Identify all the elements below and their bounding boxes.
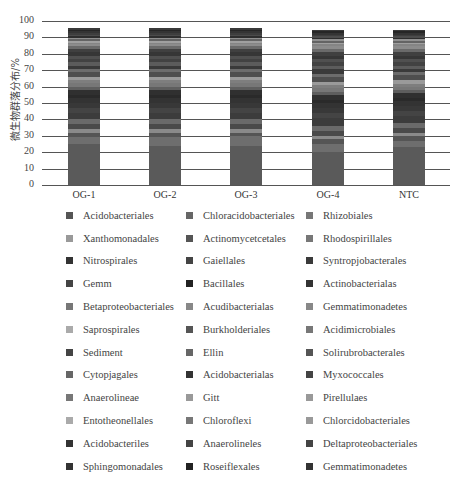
bar-segment bbox=[312, 118, 344, 126]
legend-item: Gemmatimonadetes bbox=[306, 295, 446, 318]
legend-item: Acidobacteriles bbox=[66, 432, 186, 455]
legend-label: Acidobacterialas bbox=[203, 369, 274, 380]
bar-ntc bbox=[393, 29, 425, 185]
y-tick-label: 40 bbox=[14, 112, 34, 123]
stacked-bar-chart: 微生物群落分布/% 0102030405060708090100OG-1OG-2… bbox=[0, 0, 462, 200]
y-tick-label: 10 bbox=[14, 162, 34, 173]
bar-segment bbox=[68, 144, 100, 185]
y-tick-label: 0 bbox=[14, 178, 34, 189]
legend-item: Burkholderiales bbox=[186, 318, 306, 341]
legend-label: Entotheonellales bbox=[83, 415, 153, 426]
legend-swatch-icon bbox=[66, 326, 73, 333]
legend-label: Chlorcidobacteriales bbox=[323, 415, 410, 426]
legend-swatch-icon bbox=[66, 440, 73, 447]
legend-item: Chlorcidobacteriales bbox=[306, 409, 446, 432]
legend-item: Roseiflexales bbox=[186, 455, 306, 478]
legend-label: Burkholderiales bbox=[203, 324, 270, 335]
legend-swatch-icon bbox=[186, 280, 193, 287]
bar-og-4 bbox=[312, 29, 344, 185]
legend-item: Myxococcales bbox=[306, 364, 446, 387]
bar-segment bbox=[230, 146, 262, 185]
legend-label: Gemmatimonadetes bbox=[323, 461, 407, 472]
legend-item: Chloroflexi bbox=[186, 409, 306, 432]
legend-swatch-icon bbox=[186, 212, 193, 219]
x-tick-label: OG-3 bbox=[216, 189, 276, 200]
legend-swatch-icon bbox=[306, 371, 313, 378]
legend-label: Chloracidobacteriales bbox=[203, 210, 295, 221]
legend-swatch-icon bbox=[186, 394, 193, 401]
gridline bbox=[42, 21, 450, 22]
y-tick-label: 50 bbox=[14, 96, 34, 107]
legend-item: Gemm bbox=[66, 272, 186, 295]
legend-swatch-icon bbox=[306, 303, 313, 310]
legend-item: Betaproteobacteriales bbox=[66, 295, 186, 318]
legend-item: Actinobacterialas bbox=[306, 272, 446, 295]
x-tick-label: OG-2 bbox=[135, 189, 195, 200]
bar-og-3 bbox=[230, 28, 262, 185]
legend-item: Chloracidobacteriales bbox=[186, 204, 306, 227]
legend-swatch-icon bbox=[186, 257, 193, 264]
legend-swatch-icon bbox=[66, 349, 73, 356]
legend-swatch-icon bbox=[66, 371, 73, 378]
legend-label: Bacillales bbox=[203, 278, 244, 289]
legend-item: Ellin bbox=[186, 341, 306, 364]
legend-label: Rhodospirillales bbox=[323, 233, 392, 244]
bar-segment bbox=[312, 152, 344, 185]
legend-item: Anaerolineae bbox=[66, 386, 186, 409]
legend-swatch-icon bbox=[66, 280, 73, 287]
legend-swatch-icon bbox=[186, 326, 193, 333]
legend-label: Rhizobiales bbox=[323, 210, 373, 221]
legend-swatch-icon bbox=[186, 463, 193, 470]
legend-swatch-icon bbox=[306, 235, 313, 242]
legend-label: Acidobacteriles bbox=[83, 438, 149, 449]
legend-swatch-icon bbox=[306, 257, 313, 264]
legend-swatch-icon bbox=[306, 280, 313, 287]
legend-swatch-icon bbox=[306, 440, 313, 447]
legend-item: Rhodospirillales bbox=[306, 227, 446, 250]
legend-item: Deltaproteobacteriales bbox=[306, 432, 446, 455]
legend-label: Syntropjobacterales bbox=[323, 255, 406, 266]
legend-label: Gemmatimonadetes bbox=[323, 301, 407, 312]
legend-label: Gitt bbox=[203, 392, 219, 403]
bar-segment bbox=[149, 146, 181, 185]
legend-label: Nitrospirales bbox=[83, 255, 137, 266]
legend-label: Roseiflexales bbox=[203, 461, 260, 472]
legend-swatch-icon bbox=[186, 349, 193, 356]
legend-label: Chloroflexi bbox=[203, 415, 251, 426]
legend-label: Anaerolineles bbox=[203, 438, 261, 449]
legend-swatch-icon bbox=[186, 235, 193, 242]
legend-item: Pirellulaes bbox=[306, 386, 446, 409]
y-tick-label: 30 bbox=[14, 129, 34, 140]
legend-item: Acudibacterialas bbox=[186, 295, 306, 318]
legend-item: Saprospirales bbox=[66, 318, 186, 341]
legend-item: Actinomycetcetales bbox=[186, 227, 306, 250]
legend-label: Gaiellales bbox=[203, 255, 245, 266]
legend-item: Entotheonellales bbox=[66, 409, 186, 432]
legend-item: Gitt bbox=[186, 386, 306, 409]
legend-swatch-icon bbox=[186, 440, 193, 447]
bar-segment bbox=[230, 136, 262, 146]
legend-swatch-icon bbox=[66, 257, 73, 264]
bar-segment bbox=[312, 144, 344, 152]
legend-item: Sphingomonadales bbox=[66, 455, 186, 478]
legend-item: Acidobacteriales bbox=[66, 204, 186, 227]
legend-swatch-icon bbox=[306, 349, 313, 356]
legend-label: Sediment bbox=[83, 347, 123, 358]
legend-swatch-icon bbox=[306, 463, 313, 470]
legend-swatch-icon bbox=[306, 417, 313, 424]
legend-label: Acidobacteriales bbox=[83, 210, 154, 221]
legend-label: Deltaproteobacteriales bbox=[323, 438, 417, 449]
legend-label: Anaerolineae bbox=[83, 392, 139, 403]
legend-label: Sphingomonadales bbox=[83, 461, 163, 472]
legend-swatch-icon bbox=[66, 463, 73, 470]
legend-label: Myxococcales bbox=[323, 369, 384, 380]
x-tick-label: OG-1 bbox=[54, 189, 114, 200]
x-tick-label: NTC bbox=[379, 189, 439, 200]
legend-label: Cytopjagales bbox=[83, 369, 138, 380]
y-tick-label: 20 bbox=[14, 145, 34, 156]
legend-item: Nitrospirales bbox=[66, 250, 186, 273]
legend-label: Acidimicrobiales bbox=[323, 324, 395, 335]
legend-item: Cytopjagales bbox=[66, 364, 186, 387]
y-tick-label: 100 bbox=[14, 14, 34, 25]
y-tick-label: 90 bbox=[14, 30, 34, 41]
